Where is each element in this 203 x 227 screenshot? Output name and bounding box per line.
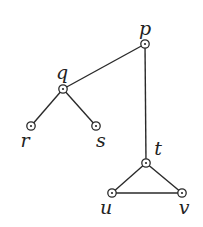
node-center-u: [111, 192, 113, 194]
edge-q-s: [63, 89, 96, 126]
node-center-r: [30, 125, 32, 127]
node-center-t: [145, 162, 147, 164]
graph-diagram: pqrstuv: [0, 0, 203, 227]
node-center-v: [181, 192, 183, 194]
edge-t-v: [146, 163, 182, 193]
edge-t-u: [112, 163, 146, 193]
edge-q-r: [31, 89, 63, 126]
node-center-p: [144, 43, 146, 45]
edge-p-t: [145, 44, 146, 163]
node-label-s: s: [96, 129, 106, 151]
labels-group: pqrstuv: [20, 17, 189, 218]
node-label-v: v: [179, 196, 190, 218]
nodes-group: [27, 40, 186, 197]
edges-group: [31, 44, 182, 193]
node-center-q: [62, 88, 64, 90]
node-label-p: p: [139, 17, 151, 39]
node-label-u: u: [100, 196, 112, 218]
node-label-r: r: [20, 129, 31, 151]
node-label-q: q: [56, 61, 68, 83]
edge-p-q: [63, 44, 145, 89]
node-label-t: t: [154, 137, 162, 159]
node-center-s: [95, 125, 97, 127]
